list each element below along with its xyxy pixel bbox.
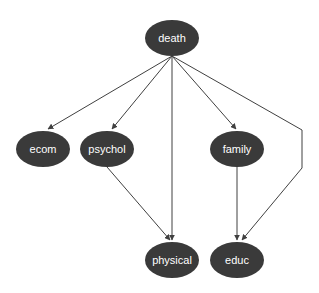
graph-svg: death ecom psychol family physical educ — [0, 0, 319, 293]
node-physical[interactable]: physical — [145, 242, 199, 278]
node-label: physical — [152, 254, 192, 266]
node-educ[interactable]: educ — [210, 242, 264, 278]
node-ecom[interactable]: ecom — [16, 131, 70, 167]
edge-death-ecom — [48, 56, 172, 129]
node-psychol[interactable]: psychol — [80, 131, 134, 167]
node-label: ecom — [30, 143, 57, 155]
node-label: psychol — [88, 143, 125, 155]
edge-psychol-physical — [107, 167, 170, 240]
node-label: death — [158, 32, 186, 44]
node-family[interactable]: family — [210, 131, 264, 167]
edge-death-family — [172, 56, 236, 129]
node-label: family — [223, 143, 252, 155]
node-label: educ — [225, 254, 249, 266]
node-death[interactable]: death — [145, 20, 199, 56]
graph-canvas: death ecom psychol family physical educ — [0, 0, 319, 293]
edge-death-psychol — [112, 56, 172, 129]
